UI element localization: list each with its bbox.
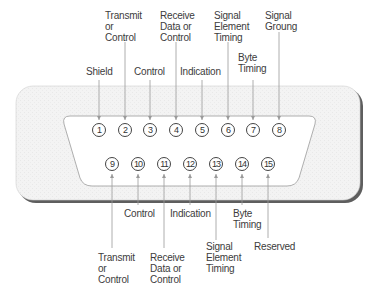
pin-11: 11 — [157, 157, 171, 171]
pin-12-label: Indication — [170, 208, 211, 219]
pin-4-label: Receive Data or Control — [160, 10, 195, 43]
pin-14: 14 — [235, 157, 249, 171]
pin-3-label: Control — [134, 66, 165, 77]
pin-11-label: Receive Data or Control — [150, 252, 185, 285]
pin-8-label: Signal Groung — [265, 10, 297, 32]
pin-1: 1 — [92, 123, 106, 137]
pin-4: 4 — [169, 123, 183, 137]
pin-7: 7 — [246, 123, 260, 137]
pin-14-label: Byte Timing — [233, 208, 261, 230]
pin-15: 15 — [261, 157, 275, 171]
pin-5-label: Indication — [180, 66, 221, 77]
pin-13-label: Signal Element Timing — [206, 241, 241, 274]
pin-15-label: Reserved — [254, 241, 295, 252]
pin-6: 6 — [221, 123, 235, 137]
pin-9: 9 — [105, 157, 119, 171]
connector-diagram — [0, 0, 379, 297]
pin-2: 2 — [118, 123, 132, 137]
pin-2-label: Transmit or Control — [105, 10, 142, 43]
pin-1-label: Shield — [86, 66, 113, 77]
pin-12: 12 — [183, 157, 197, 171]
pin-8: 8 — [272, 123, 286, 137]
pin-7-label: Byte Timing — [238, 52, 266, 74]
pin-6-label: Signal Element Timing — [214, 10, 249, 43]
pin-9-label: Transmit or Control — [98, 252, 135, 285]
pin-13: 13 — [209, 157, 223, 171]
pin-5: 5 — [195, 123, 209, 137]
pin-3: 3 — [143, 123, 157, 137]
pin-10-label: Control — [124, 208, 155, 219]
pin-10: 10 — [131, 157, 145, 171]
